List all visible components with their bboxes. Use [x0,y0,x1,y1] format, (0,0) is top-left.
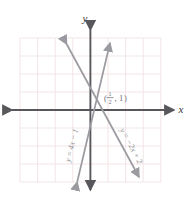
line-steep [77,43,110,182]
intersection-point-label: ( 1 2 , 1 ) [104,91,127,105]
x-axis-label: x [178,103,184,115]
point-label-comma: , [115,93,117,103]
point-label-x-numerator: 1 [109,91,112,97]
axes [12,30,174,190]
point-label-open-paren: ( [104,93,107,103]
point-label-y-value: 1 [119,93,123,103]
point-label-close-paren: ) [124,93,127,103]
coordinate-plane-svg: y x ( 1 2 , 1 ) y = 4x − 1 y = −2x + 2 [0,0,191,206]
y-axis-label: y [82,12,88,24]
point-label-x-denominator: 2 [109,99,112,105]
graph-figure: y x ( 1 2 , 1 ) y = 4x − 1 y = −2x + 2 [0,0,191,206]
